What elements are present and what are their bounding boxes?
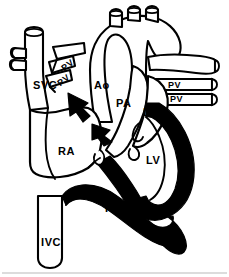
pv-right-lower-lumen-icon: [212, 94, 217, 105]
label-svc: SVC: [33, 80, 57, 91]
svc-group: [25, 27, 48, 110]
ivc-group: [38, 196, 62, 268]
label-ao: Ao: [94, 80, 110, 91]
right-atrium-group: [30, 107, 102, 179]
label-ivc: IVC: [41, 237, 61, 248]
pv-right-upper-lumen-icon: [212, 79, 217, 90]
label-lv: LV: [146, 155, 160, 166]
aortic-branch-middle-lumen-icon: [128, 8, 140, 13]
left-vessel-stumps-group: [10, 48, 26, 70]
right-pulmonary-artery-group: [148, 55, 219, 74]
right-atrium-shape: [30, 107, 102, 177]
label-ra: RA: [58, 146, 75, 157]
heart-diagram-figure: SVC IVC Ao PA LA RA LV RV PV PV PV PV: [0, 0, 229, 277]
svc-shape: [25, 27, 48, 110]
heart-diagram-svg: [0, 0, 229, 277]
cardiac-apex-group: [154, 216, 186, 254]
label-pa: PA: [116, 98, 132, 109]
aortic-branch-right-lumen-icon: [146, 8, 158, 13]
label-la: LA: [143, 107, 159, 118]
cardiac-apex-shape: [154, 216, 186, 254]
right-pulmonary-artery-lumen-icon: [215, 60, 219, 72]
label-pv-right-lower: PV: [170, 95, 183, 104]
label-rv: RV: [105, 203, 121, 214]
svc-lumen-icon: [25, 29, 43, 36]
right-pulmonary-artery-shape: [148, 55, 215, 74]
ivc-shape: [38, 196, 62, 268]
label-pv-right-upper: PV: [168, 81, 181, 90]
aortic-branch-left-lumen-icon: [110, 11, 122, 16]
